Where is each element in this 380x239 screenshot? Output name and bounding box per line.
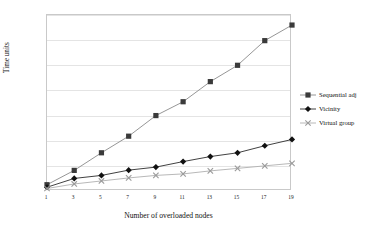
x-axis-tick-label: 1 xyxy=(36,194,56,200)
x-marker-icon xyxy=(300,118,316,128)
x-axis-tick-label: 3 xyxy=(63,194,83,200)
x-axis-title: Number of overloaded nodes xyxy=(46,211,291,220)
plot-area xyxy=(46,14,291,190)
line-chart: Time units 0100200300400500600700 135791… xyxy=(0,0,380,239)
x-axis-tick-label: 17 xyxy=(254,194,274,200)
series-layer xyxy=(47,15,292,191)
legend-item[interactable]: Vicinity xyxy=(300,102,378,116)
legend-item-label: Sequential adj xyxy=(319,90,357,100)
y-axis-title: Time units xyxy=(3,42,11,73)
x-axis-tick-label: 9 xyxy=(145,194,165,200)
legend-item-label: Virtual group xyxy=(319,118,354,128)
square-marker-icon xyxy=(300,90,316,100)
legend-item[interactable]: Virtual group xyxy=(300,116,378,130)
diamond-marker-icon xyxy=(300,104,316,114)
x-axis-tick-label: 15 xyxy=(227,194,247,200)
x-axis-tick-label: 7 xyxy=(118,194,138,200)
chart-legend: Sequential adjVicinityVirtual group xyxy=(300,88,378,130)
x-axis-tick-label: 19 xyxy=(281,194,301,200)
series-vicinity xyxy=(44,136,295,190)
legend-item-label: Vicinity xyxy=(319,104,340,114)
series-sequential-adj xyxy=(44,22,294,187)
x-axis-tick-label: 5 xyxy=(90,194,110,200)
x-axis-tick-label: 11 xyxy=(172,194,192,200)
legend-item[interactable]: Sequential adj xyxy=(300,88,378,102)
x-axis-tick-label: 13 xyxy=(199,194,219,200)
